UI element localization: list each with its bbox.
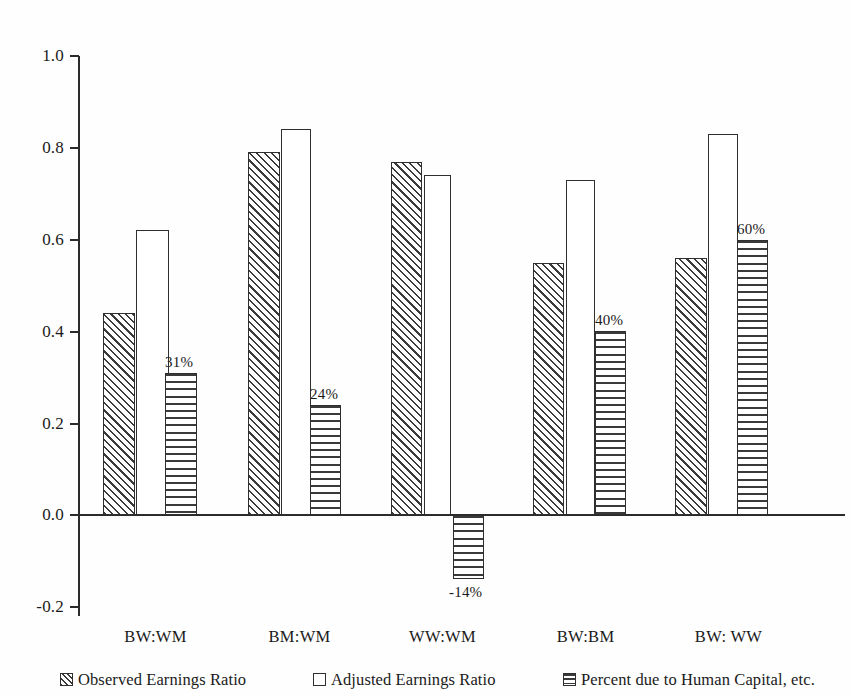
legend-label-observed: Observed Earnings Ratio [78, 671, 246, 688]
bar-value-label-bmwm: 24% [310, 387, 338, 402]
y-axis-label-0.2: 0.2 [6, 415, 64, 432]
bar-adjusted-bwbm [566, 180, 595, 515]
category-label-bm-wm: BM:WM [222, 628, 377, 645]
y-tick-0.6 [70, 239, 79, 241]
bar-human-capital-bwwm [165, 373, 197, 515]
legend-item-adjusted: Adjusted Earnings Ratio [313, 668, 496, 690]
bar-value-label-bwww: 60% [737, 222, 765, 237]
category-label-bw-bm: BW:BM [508, 628, 663, 645]
y-tick-0.0 [70, 514, 79, 516]
y-axis-label-0.0: 0.0 [6, 506, 64, 523]
y-axis-label--0.2: -0.2 [6, 598, 64, 615]
bar-observed-bwwm [103, 313, 135, 515]
legend-item-observed: Observed Earnings Ratio [60, 668, 246, 690]
category-label-ww-wm: WW:WM [365, 628, 520, 645]
y-tick-0.8 [70, 147, 79, 149]
bar-human-capital-wwwm [453, 515, 484, 579]
bar-observed-bwbm [533, 263, 564, 515]
bar-human-capital-bwbm [595, 331, 626, 515]
white-swatch-icon [313, 673, 326, 686]
bar-chart: 1.0 0.8 0.6 0.4 0.2 0.0 -0.2 31%24%-14%4… [0, 0, 850, 696]
bar-value-label-bwwm: 31% [165, 355, 193, 370]
plot-area: 1.0 0.8 0.6 0.4 0.2 0.0 -0.2 31%24%-14%4… [0, 0, 850, 696]
y-tick-0.4 [70, 331, 79, 333]
bar-observed-bwww [675, 258, 707, 515]
legend: Observed Earnings Ratio Adjusted Earning… [60, 668, 850, 692]
y-axis-label-0.4: 0.4 [6, 323, 64, 340]
bar-value-label-bwbm: 40% [595, 313, 623, 328]
category-label-bw-wm: BW:WM [78, 628, 233, 645]
y-tick-0.2 [70, 423, 79, 425]
y-axis-line [78, 56, 80, 616]
y-axis-label-0.6: 0.6 [6, 231, 64, 248]
y-tick--0.2 [70, 606, 79, 608]
bar-value-label-wwwm: -14% [449, 585, 482, 600]
bar-observed-wwwm [391, 162, 422, 515]
bar-adjusted-bmwm [281, 129, 311, 515]
legend-label-adjusted: Adjusted Earnings Ratio [331, 671, 496, 688]
legend-label-human-capital: Percent due to Human Capital, etc. [581, 671, 815, 688]
bar-observed-bmwm [248, 152, 280, 515]
bar-human-capital-bwww [737, 240, 768, 515]
y-axis-label-0.8: 0.8 [6, 139, 64, 156]
bar-adjusted-wwwm [424, 175, 451, 515]
legend-item-human-capital: Percent due to Human Capital, etc. [563, 668, 815, 690]
bar-adjusted-bwww [708, 134, 738, 515]
category-label-bw-ww: BW: WW [651, 628, 806, 645]
bar-human-capital-bmwm [310, 405, 341, 515]
hatch-swatch-icon [60, 673, 73, 686]
y-tick-1.0 [70, 55, 79, 57]
y-axis-label-1.0: 1.0 [6, 47, 64, 64]
lines-swatch-icon [563, 673, 576, 686]
